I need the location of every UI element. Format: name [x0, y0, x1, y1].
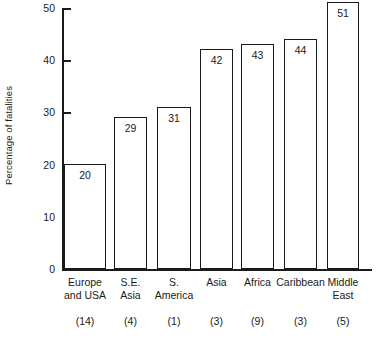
category-label-line1: Middle — [298, 276, 380, 289]
bar: 31 — [157, 107, 191, 269]
y-tick-mark — [62, 269, 71, 271]
bar: 44 — [284, 39, 317, 269]
bar-value-label: 43 — [242, 49, 273, 61]
category-label-line2: America — [129, 289, 219, 302]
bar: 51 — [327, 2, 359, 268]
bar: 29 — [114, 117, 147, 268]
category-label-line2: East — [298, 289, 380, 302]
y-tick-label: 20 — [43, 159, 55, 171]
y-axis-title-text: Percentage of fatalities — [4, 85, 15, 184]
bar-chart: Percentage of fatalities 01020304050 202… — [0, 0, 380, 337]
y-tick-label: 40 — [43, 54, 55, 66]
y-tick-label: 0 — [49, 263, 55, 275]
y-tick-mark — [62, 60, 71, 62]
y-tick-mark — [62, 8, 71, 10]
bar-value-label: 42 — [201, 54, 232, 66]
bar-value-label: 44 — [285, 44, 316, 56]
bar: 42 — [200, 49, 233, 268]
y-tick-mark — [62, 112, 71, 114]
category-sample-count: (5) — [313, 315, 373, 327]
x-axis-line — [62, 269, 372, 271]
y-tick-label: 50 — [43, 2, 55, 14]
plot-area: 01020304050 20293142434451 — [62, 8, 372, 270]
bar-value-label: 51 — [328, 7, 358, 19]
y-axis-title: Percentage of fatalities — [0, 0, 18, 270]
bar: 20 — [64, 164, 106, 268]
y-tick-label: 30 — [43, 106, 55, 118]
bar: 43 — [241, 44, 274, 268]
bar-value-label: 20 — [65, 169, 105, 181]
category-label: MiddleEast — [298, 276, 380, 301]
bar-value-label: 29 — [115, 122, 146, 134]
y-tick-label: 10 — [43, 211, 55, 223]
bar-value-label: 31 — [158, 112, 190, 124]
